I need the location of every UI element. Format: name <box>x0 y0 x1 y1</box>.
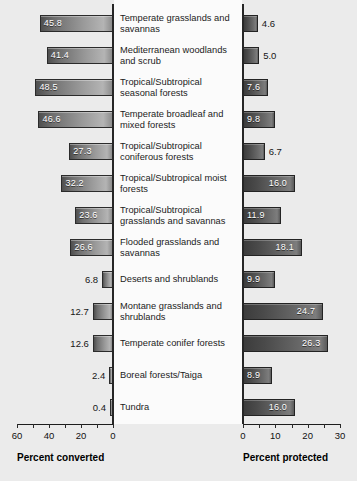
bar-value-converted: 2.4 <box>79 368 105 383</box>
right-bar-track: 24.7 <box>243 296 340 328</box>
axis-tick <box>65 424 66 428</box>
right-bar-track: 7.6 <box>243 72 340 104</box>
axis-tick <box>33 424 34 428</box>
chart-row: 32.2Tropical/Subtropical moist forests16… <box>0 168 357 200</box>
bar-percent-converted <box>93 303 113 320</box>
bar-value-protected: 11.9 <box>247 208 265 223</box>
axis-tick-label: 20 <box>297 430 319 441</box>
axis-tick <box>275 424 276 428</box>
left-bar-track: 46.6 <box>17 104 113 136</box>
bar-value-converted: 23.6 <box>79 208 97 223</box>
left-bar-track: 27.3 <box>17 136 113 168</box>
category-label: Temperate conifer forests <box>120 328 240 360</box>
bar-value-protected: 26.3 <box>302 336 320 351</box>
left-bar-track: 48.5 <box>17 72 113 104</box>
chart-row: 27.3Tropical/Subtropical coniferous fore… <box>0 136 357 168</box>
bar-percent-protected <box>243 47 259 64</box>
bar-value-protected: 18.1 <box>276 240 294 255</box>
chart-row: 41.4Mediterranean woodlands and scrub5.0 <box>0 40 357 72</box>
left-bar-track: 32.2 <box>17 168 113 200</box>
right-bar-track: 4.6 <box>243 8 340 40</box>
category-label: Mediterranean woodlands and scrub <box>120 40 240 72</box>
category-label: Flooded grasslands and savannas <box>120 232 240 264</box>
bar-value-protected: 5.0 <box>263 48 276 63</box>
chart-row: 6.8Deserts and shrublands9.9 <box>0 264 357 296</box>
right-bar-track: 8.9 <box>243 360 340 392</box>
axis-tick <box>324 424 325 428</box>
axis-tick <box>49 424 50 428</box>
axis-tick-label: 0 <box>232 430 254 441</box>
axis-tick <box>81 424 82 428</box>
bar-percent-protected <box>243 143 265 160</box>
bar-value-converted: 41.4 <box>51 48 69 63</box>
axis-tick-label: 40 <box>38 430 60 441</box>
axis-tick <box>259 424 260 428</box>
bar-value-protected: 16.0 <box>269 176 287 191</box>
axis-tick-label: 20 <box>70 430 92 441</box>
category-label: Tundra <box>120 392 240 424</box>
bar-value-converted: 27.3 <box>73 144 91 159</box>
axis-tick-label: 60 <box>6 430 28 441</box>
chart-rows: 45.8Temperate grasslands and savannas4.6… <box>0 0 357 424</box>
bar-value-converted: 12.6 <box>63 336 89 351</box>
chart-row: 46.6Temperate broadleaf and mixed forest… <box>0 104 357 136</box>
bar-value-converted: 32.2 <box>65 176 83 191</box>
bar-value-protected: 24.7 <box>297 304 315 319</box>
right-bar-track: 6.7 <box>243 136 340 168</box>
right-zero-spine <box>242 4 244 424</box>
bar-value-converted: 0.4 <box>80 400 106 415</box>
bar-value-converted: 12.7 <box>63 304 89 319</box>
category-label: Tropical/Subtropical seasonal forests <box>120 72 240 104</box>
category-label: Montane grasslands and shrublands <box>120 296 240 328</box>
category-label: Temperate grasslands and savannas <box>120 8 240 40</box>
left-bar-track: 45.8 <box>17 8 113 40</box>
bar-value-protected: 6.7 <box>269 144 282 159</box>
left-bar-track: 12.7 <box>17 296 113 328</box>
right-bar-track: 11.9 <box>243 200 340 232</box>
right-bar-track: 9.9 <box>243 264 340 296</box>
right-bar-track: 16.0 <box>243 168 340 200</box>
axis-tick <box>308 424 309 428</box>
chart-row: 23.6Tropical/Subtropical grasslands and … <box>0 200 357 232</box>
left-bar-track: 2.4 <box>17 360 113 392</box>
left-bar-track: 26.6 <box>17 232 113 264</box>
chart-row: 12.6Temperate conifer forests26.3 <box>0 328 357 360</box>
chart-row: 48.5Tropical/Subtropical seasonal forest… <box>0 72 357 104</box>
axis-tick <box>113 424 114 428</box>
bar-value-converted: 46.6 <box>42 112 60 127</box>
bar-value-protected: 8.9 <box>247 368 260 383</box>
bar-value-converted: 45.8 <box>44 16 62 31</box>
bar-value-protected: 9.8 <box>247 112 260 127</box>
left-axis-title: Percent converted <box>17 452 104 464</box>
left-bar-track: 0.4 <box>17 392 113 424</box>
chart-row: 26.6Flooded grasslands and savannas18.1 <box>0 232 357 264</box>
category-label: Temperate broadleaf and mixed forests <box>120 104 240 136</box>
bar-value-converted: 26.6 <box>74 240 92 255</box>
category-label: Deserts and shrublands <box>120 264 240 296</box>
axis-tick-label: 10 <box>264 430 286 441</box>
right-bar-track: 16.0 <box>243 392 340 424</box>
bar-value-protected: 16.0 <box>269 400 287 415</box>
right-bar-track: 26.3 <box>243 328 340 360</box>
axis-tick <box>340 424 341 428</box>
left-bar-track: 23.6 <box>17 200 113 232</box>
paired-bar-chart: 45.8Temperate grasslands and savannas4.6… <box>0 0 357 481</box>
left-bar-track: 41.4 <box>17 40 113 72</box>
category-label: Tropical/Subtropical grasslands and sava… <box>120 200 240 232</box>
right-bar-track: 18.1 <box>243 232 340 264</box>
right-bar-track: 9.8 <box>243 104 340 136</box>
axis-tick-label: 0 <box>102 430 124 441</box>
category-label: Tropical/Subtropical moist forests <box>120 168 240 200</box>
axis-tick <box>17 424 18 428</box>
bar-value-protected: 9.9 <box>247 272 260 287</box>
chart-row: 45.8Temperate grasslands and savannas4.6 <box>0 8 357 40</box>
axis-tick <box>292 424 293 428</box>
chart-row: 2.4Boreal forests/Taiga8.9 <box>0 360 357 392</box>
left-bar-track: 6.8 <box>17 264 113 296</box>
right-axis-title: Percent protected <box>243 452 328 464</box>
bar-percent-converted <box>93 335 113 352</box>
category-label: Tropical/Subtropical coniferous forests <box>120 136 240 168</box>
axis-tick <box>97 424 98 428</box>
bar-value-protected: 7.6 <box>247 80 260 95</box>
bar-value-converted: 6.8 <box>72 272 98 287</box>
